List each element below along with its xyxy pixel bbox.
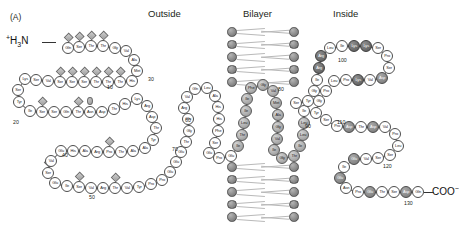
residue-40-ala: Ala bbox=[79, 145, 91, 157]
o-glycosylation-diamond bbox=[110, 172, 120, 182]
o-glycosylation-diamond bbox=[86, 30, 96, 40]
residue-38-pro: Pro bbox=[103, 146, 115, 158]
lipid-head-group bbox=[227, 212, 237, 222]
residue-14-ser: Ser bbox=[66, 76, 78, 88]
residue-45-glu: Glu bbox=[49, 177, 61, 189]
residue-108-pro: Pro bbox=[340, 74, 352, 86]
lipid-tail bbox=[261, 192, 289, 195]
residue-71-pro: Pro bbox=[213, 152, 225, 164]
residue-107-lys: Lys bbox=[352, 74, 364, 86]
residue-95-ile: Ile bbox=[311, 74, 323, 86]
residue-37-thr: Thr bbox=[115, 146, 127, 158]
residue-105-asp: Asp bbox=[376, 72, 388, 84]
lipid-tail bbox=[261, 57, 289, 60]
lipid-head-group bbox=[227, 40, 237, 50]
residue-86-gly: Gly bbox=[276, 152, 288, 164]
residue-88-ile: Ile bbox=[294, 140, 306, 152]
residue-128-pro: Pro bbox=[352, 186, 364, 198]
residue-19-ser: Ser bbox=[12, 84, 24, 96]
residue-123-val: Val bbox=[360, 153, 372, 165]
n-terminus-bond bbox=[42, 42, 56, 43]
residue-81-met: Met bbox=[270, 97, 282, 109]
residue-16-val: Val bbox=[42, 75, 54, 87]
lipid-head-group bbox=[289, 77, 299, 87]
residue-24-gln: Gln bbox=[60, 106, 72, 118]
residue-58-thr: Thr bbox=[180, 136, 192, 148]
residue-106-val: Val bbox=[364, 74, 376, 86]
residue-3-thr: Thr bbox=[85, 40, 97, 52]
residue-99-ile: Ile bbox=[336, 40, 348, 52]
residue-29-his: His bbox=[119, 98, 131, 110]
lipid-tail bbox=[237, 168, 265, 171]
residue-77-ile: Ile bbox=[241, 93, 253, 105]
residue-4-thr: Thr bbox=[97, 40, 109, 52]
lipid-head-group bbox=[227, 27, 237, 37]
lipid-head-group bbox=[227, 162, 237, 172]
o-glycosylation-diamond bbox=[91, 66, 101, 76]
c-terminus-label: COO− bbox=[432, 185, 459, 197]
residue-25-thr: Thr bbox=[72, 106, 84, 118]
lipid-tail bbox=[237, 194, 265, 197]
residue-43-val: Val bbox=[45, 155, 57, 167]
residue-number-label-120: 120 bbox=[383, 163, 392, 169]
o-glycosylation-diamond bbox=[74, 31, 84, 41]
residue-133-gln: Gln bbox=[412, 186, 424, 198]
residue-23-ser: Ser bbox=[48, 106, 60, 118]
residue-47-ser: Ser bbox=[73, 181, 85, 193]
residue-75-leu: Leu bbox=[238, 117, 250, 129]
residue-9-his: His bbox=[126, 75, 138, 87]
residue-52-tyr: Tyr bbox=[133, 181, 145, 193]
lipid-head-group bbox=[227, 65, 237, 75]
residue-21-ile: Ile bbox=[24, 105, 36, 117]
residue-22-ser: Ser bbox=[36, 106, 48, 118]
residue-number-label-20: 20 bbox=[13, 119, 19, 125]
residue-82-ala: Ala bbox=[272, 109, 284, 121]
residue-number-label-30: 30 bbox=[148, 76, 154, 82]
lipid-head-group bbox=[227, 200, 237, 210]
residue-41-his: His bbox=[67, 145, 79, 157]
residue-119-pro: Pro bbox=[389, 128, 401, 140]
o-glycosylation-diamond bbox=[73, 96, 83, 106]
residue-132-asp: Asp bbox=[400, 186, 412, 198]
lipid-head-group bbox=[289, 52, 299, 62]
lipid-tail bbox=[261, 31, 289, 34]
lipid-tail bbox=[261, 204, 289, 207]
lipid-tail bbox=[237, 214, 265, 217]
lipid-tail bbox=[237, 53, 265, 56]
lipid-tail bbox=[237, 188, 265, 191]
residue-number-label-110: 110 bbox=[337, 119, 345, 125]
lipid-tail bbox=[237, 46, 265, 49]
lipid-head-group bbox=[289, 65, 299, 75]
o-glycosylation-diamond bbox=[55, 66, 65, 76]
residue-59-gly: Gly bbox=[183, 125, 195, 137]
residue-117-asp: Asp bbox=[367, 121, 379, 133]
residue-number-label-80: 80 bbox=[278, 86, 284, 92]
residue-2-ser: Ser bbox=[73, 41, 85, 53]
lipid-tail bbox=[237, 59, 265, 62]
residue-number-label-130: 130 bbox=[404, 200, 413, 206]
lipid-tail bbox=[261, 69, 289, 72]
c-terminus-bond bbox=[424, 192, 434, 193]
residue-15-ser: Ser bbox=[54, 76, 66, 88]
residue-98-leu: Leu bbox=[324, 42, 336, 54]
residue-17-ser: Ser bbox=[30, 74, 42, 86]
residue-48-val: Val bbox=[85, 182, 97, 194]
n-terminus-label: +H3N bbox=[6, 34, 28, 48]
o-glycosylation-diamond bbox=[79, 66, 89, 76]
lipid-head-group bbox=[227, 187, 237, 197]
residue-number-label-70: 70 bbox=[172, 146, 178, 152]
residue-number-label-90: 90 bbox=[305, 123, 311, 129]
lipid-tail bbox=[261, 166, 289, 169]
lipid-head-group bbox=[227, 52, 237, 62]
lipid-head-group bbox=[227, 77, 237, 87]
residue-39-arg: Arg bbox=[91, 146, 103, 158]
residue-72-glu: Glu bbox=[225, 150, 237, 162]
lipid-head-group bbox=[289, 175, 299, 185]
residue-66-his: His bbox=[212, 101, 224, 113]
residue-27-asp: Asp bbox=[96, 106, 108, 118]
lipid-head-group bbox=[289, 40, 299, 50]
residue-number-label-40: 40 bbox=[62, 152, 68, 158]
residue-83-gly: Gly bbox=[272, 121, 284, 133]
residue-121-ser: Ser bbox=[384, 149, 396, 161]
header-bilayer: Bilayer bbox=[243, 8, 272, 19]
